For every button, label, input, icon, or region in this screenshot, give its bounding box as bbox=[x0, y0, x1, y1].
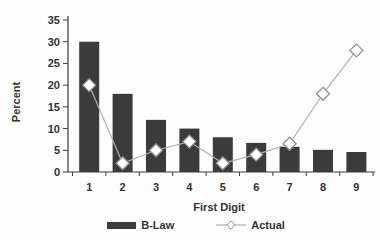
legend-label-blaw: B-Law bbox=[141, 219, 174, 231]
x-tick-label: 1 bbox=[86, 181, 92, 193]
actual-marker-digit-8 bbox=[317, 87, 330, 100]
y-tick-label: 35 bbox=[48, 14, 60, 26]
y-tick-label: 15 bbox=[48, 101, 60, 113]
x-tick-label: 5 bbox=[220, 181, 226, 193]
x-tick-label: 3 bbox=[153, 181, 159, 193]
x-tick-label: 7 bbox=[287, 181, 293, 193]
legend: B-Law Actual bbox=[0, 219, 380, 231]
x-tick-label: 6 bbox=[253, 181, 259, 193]
y-tick-label: 25 bbox=[48, 57, 60, 69]
bar-digit-1 bbox=[79, 42, 99, 172]
plot-area: 05101520253035123456789 bbox=[0, 0, 380, 240]
legend-item-blaw: B-Law bbox=[107, 219, 174, 231]
y-tick-label: 5 bbox=[54, 144, 60, 156]
bar-digit-9 bbox=[346, 152, 366, 172]
y-axis-title: Percent bbox=[10, 82, 22, 122]
y-tick-label: 30 bbox=[48, 36, 60, 48]
benford-chart: 05101520253035123456789 Percent First Di… bbox=[0, 0, 380, 240]
bar-digit-8 bbox=[313, 150, 333, 172]
x-tick-label: 4 bbox=[186, 181, 193, 193]
x-tick-label: 2 bbox=[120, 181, 126, 193]
x-tick-label: 9 bbox=[353, 181, 359, 193]
y-tick-label: 20 bbox=[48, 79, 60, 91]
y-tick-label: 10 bbox=[48, 123, 60, 135]
legend-label-actual: Actual bbox=[251, 219, 285, 231]
x-axis-title: First Digit bbox=[193, 201, 244, 213]
actual-marker-digit-9 bbox=[350, 44, 363, 57]
line-diamond-swatch-icon bbox=[216, 219, 246, 231]
legend-item-actual: Actual bbox=[216, 219, 285, 231]
y-tick-label: 0 bbox=[54, 166, 60, 178]
x-tick-label: 8 bbox=[320, 181, 326, 193]
bar-swatch-icon bbox=[107, 222, 136, 229]
